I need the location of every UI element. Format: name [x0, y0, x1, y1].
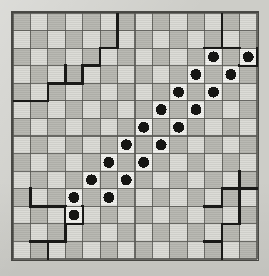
grid-cell[interactable] — [13, 66, 30, 84]
grid-cell[interactable] — [222, 101, 239, 119]
stone[interactable] — [240, 49, 256, 65]
stone[interactable] — [223, 67, 239, 83]
grid-cell[interactable] — [48, 241, 65, 259]
stone[interactable] — [66, 207, 82, 223]
grid-cell[interactable] — [65, 101, 82, 119]
grid-cell[interactable] — [240, 224, 257, 242]
stone[interactable] — [84, 172, 100, 188]
grid-cell[interactable] — [65, 171, 82, 189]
grid-cell[interactable] — [205, 206, 222, 224]
grid-cell[interactable] — [30, 13, 47, 31]
grid-cell[interactable] — [30, 224, 47, 242]
stone[interactable] — [171, 84, 187, 100]
grid-cell[interactable] — [240, 101, 257, 119]
grid-cell[interactable] — [240, 118, 257, 136]
grid-cell[interactable] — [48, 206, 65, 224]
grid-cell[interactable] — [170, 101, 187, 119]
grid-cell[interactable] — [152, 66, 169, 84]
grid-cell[interactable] — [13, 118, 30, 136]
grid-cell[interactable] — [170, 154, 187, 172]
grid-cell[interactable] — [13, 31, 30, 49]
grid-cell[interactable] — [48, 189, 65, 207]
grid-cell[interactable] — [100, 31, 117, 49]
grid-cell[interactable] — [205, 66, 222, 84]
grid-cell[interactable] — [240, 66, 257, 84]
grid-cell[interactable] — [48, 118, 65, 136]
stone[interactable] — [206, 49, 222, 65]
grid-cell[interactable] — [83, 189, 100, 207]
grid-cell[interactable] — [30, 48, 47, 66]
stone[interactable] — [66, 190, 82, 206]
grid-cell[interactable] — [118, 83, 135, 101]
grid-cell[interactable] — [152, 48, 169, 66]
grid-cell[interactable] — [135, 83, 152, 101]
grid-cell[interactable] — [135, 31, 152, 49]
grid-cell[interactable] — [152, 224, 169, 242]
grid-cell[interactable] — [135, 48, 152, 66]
grid-cell[interactable] — [187, 206, 204, 224]
grid-cell[interactable] — [118, 66, 135, 84]
grid-cell[interactable] — [135, 206, 152, 224]
grid-cell[interactable] — [100, 241, 117, 259]
grid-cell[interactable] — [65, 224, 82, 242]
stone[interactable] — [118, 137, 134, 153]
grid-cell[interactable] — [118, 224, 135, 242]
grid-cell[interactable] — [222, 118, 239, 136]
stone[interactable] — [171, 119, 187, 135]
grid-cell[interactable] — [118, 241, 135, 259]
grid-cell[interactable] — [30, 241, 47, 259]
grid-cell[interactable] — [13, 224, 30, 242]
stone[interactable] — [206, 84, 222, 100]
grid-cell[interactable] — [205, 31, 222, 49]
grid-cell[interactable] — [222, 241, 239, 259]
grid-cell[interactable] — [205, 13, 222, 31]
grid-cell[interactable] — [65, 31, 82, 49]
grid-cell[interactable] — [135, 241, 152, 259]
grid-cell[interactable] — [83, 13, 100, 31]
grid-cell[interactable] — [222, 13, 239, 31]
grid-cell[interactable] — [13, 83, 30, 101]
grid-cell[interactable] — [187, 83, 204, 101]
grid-cell[interactable] — [222, 224, 239, 242]
grid-cell[interactable] — [205, 101, 222, 119]
grid-cell[interactable] — [13, 171, 30, 189]
grid-cell[interactable] — [222, 171, 239, 189]
grid-cell[interactable] — [30, 31, 47, 49]
grid-cell[interactable] — [83, 31, 100, 49]
grid-cell[interactable] — [100, 13, 117, 31]
stone[interactable] — [101, 190, 117, 206]
grid-cell[interactable] — [135, 66, 152, 84]
grid-cell[interactable] — [170, 206, 187, 224]
grid-cell[interactable] — [187, 189, 204, 207]
grid-cell[interactable] — [118, 13, 135, 31]
grid-cell[interactable] — [30, 136, 47, 154]
grid-cell[interactable] — [205, 241, 222, 259]
grid-cell[interactable] — [100, 136, 117, 154]
grid-cell[interactable] — [135, 189, 152, 207]
grid-cell[interactable] — [152, 31, 169, 49]
grid-cell[interactable] — [240, 13, 257, 31]
grid-cell[interactable] — [222, 206, 239, 224]
grid-cell[interactable] — [205, 224, 222, 242]
grid-cell[interactable] — [170, 136, 187, 154]
grid-cell[interactable] — [187, 171, 204, 189]
grid-cell[interactable] — [170, 31, 187, 49]
grid-cell[interactable] — [83, 66, 100, 84]
grid-cell[interactable] — [30, 118, 47, 136]
grid-cell[interactable] — [13, 189, 30, 207]
grid-cell[interactable] — [170, 13, 187, 31]
grid-cell[interactable] — [100, 101, 117, 119]
grid-cell[interactable] — [205, 118, 222, 136]
grid-cell[interactable] — [118, 206, 135, 224]
grid-cell[interactable] — [13, 13, 30, 31]
grid-cell[interactable] — [30, 171, 47, 189]
stone[interactable] — [153, 137, 169, 153]
grid-cell[interactable] — [222, 189, 239, 207]
grid-cell[interactable] — [48, 31, 65, 49]
grid-cell[interactable] — [30, 101, 47, 119]
stone[interactable] — [153, 102, 169, 118]
grid-cell[interactable] — [135, 101, 152, 119]
grid-cell[interactable] — [118, 189, 135, 207]
grid-cell[interactable] — [48, 224, 65, 242]
grid-cell[interactable] — [222, 31, 239, 49]
